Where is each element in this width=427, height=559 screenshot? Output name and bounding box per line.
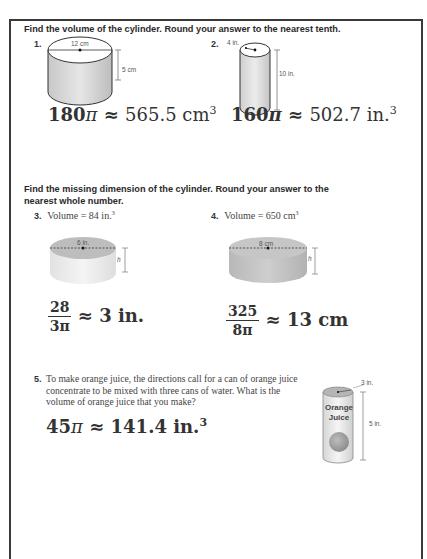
problem-5-text-line3: volume of orange juice that you make? — [46, 396, 298, 408]
pi-symbol: π — [86, 104, 98, 125]
answer-exponent: 3 — [390, 104, 397, 117]
cylinder-3-diameter-label: 6 in. — [77, 239, 89, 246]
section2-instruction: Find the missing dimension of the cylind… — [24, 184, 329, 207]
problem-4-answer: 325 8π ≈ 13 cm — [226, 303, 348, 338]
approx-symbol: ≈ — [78, 305, 93, 326]
cylinder-1-height-label: 5 cm — [122, 66, 136, 73]
answer-exponent: 3 — [199, 416, 207, 429]
answer-value: 3 in. — [99, 305, 144, 326]
can-label: Orange Juice — [324, 403, 354, 422]
volume-exponent: 3 — [112, 210, 115, 216]
problem-4-volume: Volume = 650 cm — [224, 210, 295, 221]
answer-value: 565.5 cm — [125, 104, 209, 125]
can-label-line1: Orange — [324, 403, 354, 413]
orange-juice-can-figure — [321, 384, 381, 474]
volume-exponent: 3 — [296, 210, 299, 216]
can-height-label: 5 in. — [369, 420, 381, 427]
cylinder-4-height-label: h — [308, 255, 312, 262]
cylinder-4-figure — [227, 234, 347, 304]
numerator: 325 — [226, 303, 259, 321]
fraction: 28 3π — [48, 299, 71, 334]
problem-5-text: To make orange juice, the directions cal… — [46, 373, 298, 408]
numerator: 28 — [48, 299, 71, 317]
cylinder-1-figure — [46, 34, 166, 114]
problem-3-number: 3. — [34, 211, 42, 221]
pi-symbol: π — [71, 416, 83, 437]
problem-1-number: 1. — [34, 39, 42, 49]
problem-5-text-line1: To make orange juice, the directions cal… — [46, 373, 298, 385]
approx-symbol: ≈ — [104, 104, 119, 125]
problem-5-answer: 45π ≈ 141.4 in.3 — [46, 416, 207, 437]
section2-instruction-line1: Find the missing dimension of the cylind… — [24, 184, 329, 196]
approx-symbol: ≈ — [266, 309, 281, 330]
problem-2-answer: 160π ≈ 502.7 in.3 — [231, 104, 397, 125]
answer-value: 141.4 in. — [111, 416, 200, 437]
problem-3-header: 3. Volume = 84 in.3 — [34, 210, 115, 221]
cylinder-2-height-label: 10 in. — [279, 70, 295, 77]
approx-symbol: ≈ — [288, 104, 303, 125]
approx-symbol: ≈ — [89, 416, 104, 437]
problem-5-number: 5. — [34, 374, 42, 384]
answer-coef: 45 — [46, 416, 71, 437]
answer-coef: 160 — [231, 104, 269, 125]
denominator: 8π — [233, 321, 253, 338]
problem-1-answer: 180π ≈ 565.5 cm3 — [48, 104, 216, 125]
cylinder-4-diameter-label: 8 cm — [259, 240, 273, 247]
problem-4-header: 4. Volume = 650 cm3 — [211, 210, 299, 221]
section2-instruction-line2: nearest whole number. — [24, 196, 329, 208]
problem-3-answer: 28 3π ≈ 3 in. — [48, 299, 144, 334]
cylinder-1-diameter-label: 12 cm — [71, 40, 89, 47]
fraction: 325 8π — [226, 303, 259, 338]
can-diameter-label: 3 in. — [361, 379, 373, 386]
answer-coef: 180 — [48, 104, 86, 125]
cylinder-3-figure — [48, 233, 158, 303]
answer-exponent: 3 — [209, 104, 216, 117]
answer-value: 13 cm — [287, 309, 348, 330]
cylinder-3-height-label: h — [117, 256, 121, 263]
problem-5-text-line2: concentrate to be mixed with three cans … — [46, 385, 298, 397]
problem-2-number: 2. — [211, 39, 219, 49]
pi-symbol: π — [269, 104, 282, 125]
answer-value: 502.7 in. — [309, 104, 389, 125]
denominator: 3π — [50, 317, 70, 334]
problem-3-volume: Volume = 84 in. — [47, 210, 111, 221]
problem-4-number: 4. — [211, 211, 219, 221]
can-label-line2: Juice — [324, 413, 354, 423]
